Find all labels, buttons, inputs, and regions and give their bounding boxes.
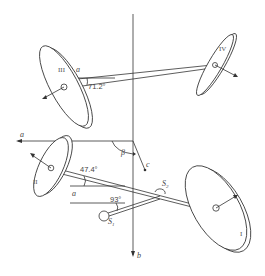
label-a-upper: a (76, 65, 80, 74)
lower-axle-bottom (62, 174, 192, 207)
angle-71-label: 71.2° (88, 82, 106, 91)
axis-a-arrowhead (16, 139, 22, 143)
angle-93-label: 93° (110, 195, 121, 204)
label-s1: S1 (108, 217, 115, 227)
lower-axle-top (62, 170, 192, 204)
axis-b-arrowhead (131, 251, 135, 257)
label-s2: S2 (162, 179, 169, 189)
angle-47-label: 47.4° (80, 165, 98, 174)
wheel-geometry-diagram: III IV II I a a a b c β 71.2° 47.4° 93° … (0, 0, 265, 276)
label-b: b (137, 251, 141, 260)
label-c: c (146, 160, 150, 169)
angle-47-arc (84, 176, 86, 186)
axis-c (133, 141, 145, 170)
beta-arrow (133, 152, 136, 156)
wheel-I (173, 156, 264, 262)
point-s2 (155, 189, 165, 194)
hub-III (61, 84, 67, 90)
label-a-left: a (20, 130, 24, 139)
label-a-middle: a (72, 189, 76, 198)
label-wheel-IV: IV (219, 45, 226, 53)
label-beta: β (120, 148, 125, 157)
label-wheel-III: III (58, 66, 66, 74)
axis-c-point (144, 169, 147, 172)
wheel-IV (191, 30, 241, 99)
label-wheel-II: II (33, 178, 38, 186)
